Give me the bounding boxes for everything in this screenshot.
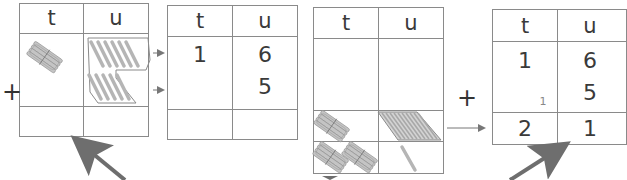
unit-sticks-bottom-icon [89, 75, 129, 99]
regrouped-ten-bundle-1-icon [312, 109, 350, 143]
ten-units-raft-icon [378, 112, 441, 140]
big-arrow-down-icon [322, 176, 338, 180]
big-arrow-to-table4-icon [510, 152, 554, 180]
ten-rod-bundle-icon [25, 40, 63, 74]
big-arrow-to-table1-icon [86, 148, 125, 180]
regrouped-ten-bundle-3-icon [340, 140, 378, 174]
single-unit-stick-icon [402, 147, 415, 170]
regrouped-ten-bundle-2-icon [311, 140, 349, 174]
unit-sticks-top-icon [91, 42, 138, 66]
